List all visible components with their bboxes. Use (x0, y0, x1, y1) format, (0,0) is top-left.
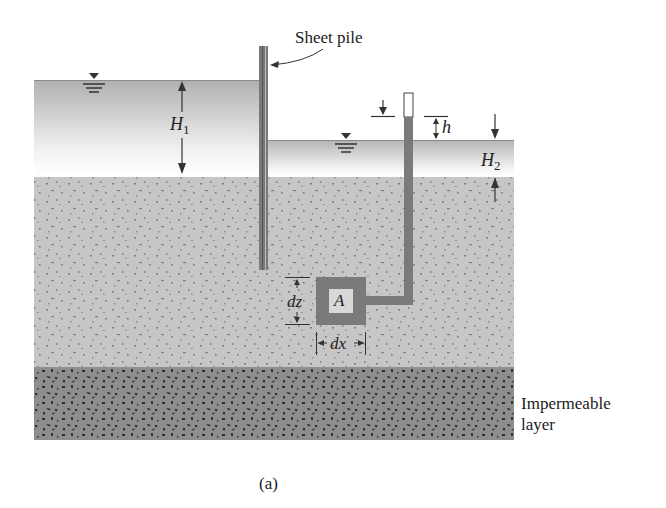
impermeable-label-line2: layer (521, 414, 611, 435)
impermeable-label-line1: Impermeable (521, 393, 611, 414)
impermeable-layer (34, 367, 514, 440)
sheet-pile-label: Sheet pile (295, 29, 363, 46)
element-a-label: A (334, 292, 344, 309)
h-label: h (442, 118, 451, 136)
h2-label: H2 (481, 151, 501, 172)
dz-label: dz (287, 293, 302, 310)
permeable-soil-layer (34, 177, 514, 367)
figure-caption: (a) (259, 475, 278, 492)
head-marker-left (371, 100, 395, 117)
dx-label: dx (330, 335, 346, 352)
upstream-water (34, 80, 262, 177)
h2-symbol: H (481, 150, 494, 170)
h1-symbol: H (170, 114, 183, 134)
h2-subscript: 2 (494, 158, 501, 173)
h1-subscript: 1 (183, 122, 190, 137)
sheet-pile (259, 46, 268, 270)
impermeable-layer-label: Impermeable layer (521, 393, 611, 435)
downstream-water (262, 140, 514, 177)
sheet-pile-leader-arrow (272, 49, 323, 65)
h1-label: H1 (170, 115, 190, 136)
